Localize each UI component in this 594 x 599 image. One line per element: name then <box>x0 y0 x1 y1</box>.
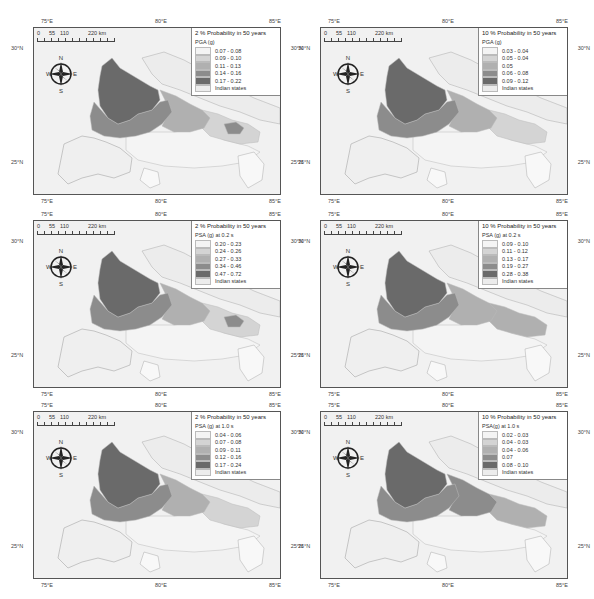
lat-tick: 25°N <box>11 159 23 165</box>
lon-tick: 75°E <box>328 402 340 408</box>
svg-text:E: E <box>360 71 364 77</box>
lat-tick: 25°N <box>11 352 23 358</box>
map-legend: 2 % Probability in 50 years PSA (g) at 1… <box>191 412 280 480</box>
lon-tick: 85°E <box>269 402 281 408</box>
lon-tick: 85°E <box>556 391 568 397</box>
lon-tick: 75°E <box>328 211 340 217</box>
map-frame: 055110220 km N S W E 2 % Probability in … <box>33 220 281 388</box>
lat-tick: 25°N <box>298 352 310 358</box>
lat-tick: 30°N <box>298 45 310 51</box>
lon-tick: 80°E <box>155 582 167 588</box>
map-legend: 2 % Probability in 50 years PGA (g) 0.07… <box>191 28 280 96</box>
lon-tick: 85°E <box>269 211 281 217</box>
scale-bar: 055110220 km <box>37 30 115 42</box>
lat-tick: 30°N <box>298 429 310 435</box>
lat-tick: 25°N <box>298 543 310 549</box>
lon-tick: 75°E <box>41 582 53 588</box>
lon-tick: 75°E <box>41 211 53 217</box>
scale-bar: 055110220 km <box>324 30 402 42</box>
svg-text:S: S <box>59 472 63 478</box>
map-panel-4: 055110220 km N S W E 10 % Probability in… <box>320 220 568 388</box>
lon-tick: 75°E <box>328 198 340 204</box>
lat-tick: 30°N <box>11 429 23 435</box>
lat-tick: 25°N <box>578 352 590 358</box>
svg-text:E: E <box>360 264 364 270</box>
lon-tick: 80°E <box>155 391 167 397</box>
lon-tick: 85°E <box>556 402 568 408</box>
map-legend: 2 % Probability in 50 years PSA (g) at 0… <box>191 221 280 289</box>
map-panel-1: 055110220 km N S W E 2 % Probability in … <box>33 27 281 195</box>
svg-text:S: S <box>59 281 63 287</box>
north-arrow-icon: N S W E <box>44 54 78 94</box>
map-legend: 10 % Probability in 50 years PSA (g) at … <box>478 221 567 289</box>
svg-text:N: N <box>346 439 350 445</box>
lat-tick: 30°N <box>11 238 23 244</box>
lat-tick: 30°N <box>578 429 590 435</box>
lat-tick: 25°N <box>578 543 590 549</box>
map-panel-6: 055110220 km N S W E 10 % Probability in… <box>320 411 568 579</box>
lon-tick: 85°E <box>556 211 568 217</box>
map-frame: 055110220 km N S W E 2 % Probability in … <box>33 411 281 579</box>
lat-tick: 25°N <box>298 159 310 165</box>
svg-text:N: N <box>59 439 63 445</box>
map-panel-2: 055110220 km N S W E 10 % Probability in… <box>320 27 568 195</box>
lon-tick: 85°E <box>269 582 281 588</box>
lon-tick: 80°E <box>442 18 454 24</box>
lon-tick: 75°E <box>41 18 53 24</box>
lon-tick: 75°E <box>41 391 53 397</box>
svg-text:E: E <box>73 455 77 461</box>
scale-bar: 055110220 km <box>324 223 402 235</box>
lon-tick: 75°E <box>328 391 340 397</box>
lon-tick: 80°E <box>155 211 167 217</box>
lat-tick: 25°N <box>11 543 23 549</box>
lon-tick: 80°E <box>155 198 167 204</box>
svg-text:E: E <box>73 264 77 270</box>
lon-tick: 80°E <box>442 198 454 204</box>
lat-tick: 30°N <box>578 238 590 244</box>
svg-text:S: S <box>346 472 350 478</box>
scale-bar: 055110220 km <box>324 414 402 426</box>
map-legend: 10 % Probability in 50 years PSA(g) at 1… <box>478 412 567 480</box>
lon-tick: 80°E <box>442 582 454 588</box>
lon-tick: 85°E <box>269 198 281 204</box>
lat-tick: 30°N <box>298 238 310 244</box>
map-panel-5: 055110220 km N S W E 2 % Probability in … <box>33 411 281 579</box>
map-panel-3: 055110220 km N S W E 2 % Probability in … <box>33 220 281 388</box>
lon-tick: 85°E <box>556 582 568 588</box>
lon-tick: 80°E <box>442 402 454 408</box>
map-frame: 055110220 km N S W E 2 % Probability in … <box>33 27 281 195</box>
lon-tick: 85°E <box>269 391 281 397</box>
lon-tick: 85°E <box>269 18 281 24</box>
lat-tick: 30°N <box>11 45 23 51</box>
svg-text:E: E <box>73 71 77 77</box>
north-arrow-icon: N S W E <box>331 438 365 478</box>
svg-text:S: S <box>346 88 350 94</box>
lon-tick: 75°E <box>41 402 53 408</box>
scale-bar: 055110220 km <box>37 414 115 426</box>
lon-tick: 80°E <box>442 391 454 397</box>
lon-tick: 80°E <box>155 18 167 24</box>
svg-text:N: N <box>346 55 350 61</box>
lon-tick: 85°E <box>556 198 568 204</box>
lat-tick: 30°N <box>578 45 590 51</box>
lon-tick: 75°E <box>328 18 340 24</box>
lat-tick: 25°N <box>578 159 590 165</box>
north-arrow-icon: N S W E <box>331 54 365 94</box>
svg-text:N: N <box>59 248 63 254</box>
north-arrow-icon: N S W E <box>44 438 78 478</box>
svg-text:N: N <box>59 55 63 61</box>
svg-text:S: S <box>346 281 350 287</box>
map-frame: 055110220 km N S W E 10 % Probability in… <box>320 220 568 388</box>
map-legend: 10 % Probability in 50 years PGA (g) 0.0… <box>478 28 567 96</box>
lon-tick: 80°E <box>442 211 454 217</box>
scale-bar: 055110220 km <box>37 223 115 235</box>
north-arrow-icon: N S W E <box>331 247 365 287</box>
north-arrow-icon: N S W E <box>44 247 78 287</box>
lon-tick: 75°E <box>41 198 53 204</box>
lon-tick: 85°E <box>556 18 568 24</box>
lon-tick: 75°E <box>328 582 340 588</box>
map-frame: 055110220 km N S W E 10 % Probability in… <box>320 411 568 579</box>
lon-tick: 80°E <box>155 402 167 408</box>
svg-text:E: E <box>360 455 364 461</box>
svg-text:S: S <box>59 88 63 94</box>
